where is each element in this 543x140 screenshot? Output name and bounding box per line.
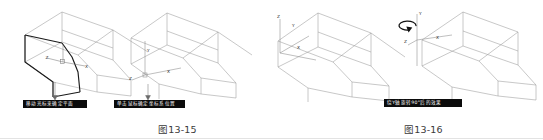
panel-1-drawing	[25, 12, 148, 97]
panel-2-callout-label: 单击鼠标确定坐标系位置	[114, 100, 185, 108]
figure-caption-13-16: 图13-16	[404, 122, 443, 136]
panel-2-axis-label-y: Y	[146, 48, 150, 53]
figure-caption-13-15: 图13-15	[158, 122, 197, 136]
panel-1-axis-label-z: Z	[46, 55, 49, 60]
panel-3-axis-label-x: X	[297, 45, 300, 50]
panel-3-axis-label-z: Z	[277, 14, 280, 19]
panel-4-ucs-icon	[408, 14, 452, 66]
panel-4-axis-label-z: Z	[404, 39, 407, 44]
panel-2-axis-label-x: X	[167, 69, 170, 74]
panel-4-axis-label-y: Y	[418, 11, 422, 16]
panel-4-axis-label-x: X	[436, 35, 439, 40]
panel-4-callout-label: 绕Y轴旋转90°后的效果	[384, 99, 462, 107]
panel-1-highlight-plane	[25, 35, 80, 97]
panel-1-callout-label: 移动光标来确定平面	[23, 100, 87, 108]
panel-4-drawing	[422, 12, 536, 101]
panel-3-drawing	[278, 13, 405, 102]
panel-2-axis-label-z: Z	[129, 76, 132, 81]
figure-canvas: Z X	[0, 0, 543, 140]
panel-1-axis-label-x: X	[85, 64, 88, 69]
panel-3-axis-label-y: Y	[291, 23, 295, 28]
panel-3-ucs-icon	[280, 19, 316, 60]
panel-2-callout-leader	[146, 84, 151, 100]
bottom-divider	[0, 138, 543, 139]
panel-2-drawing	[131, 13, 252, 99]
